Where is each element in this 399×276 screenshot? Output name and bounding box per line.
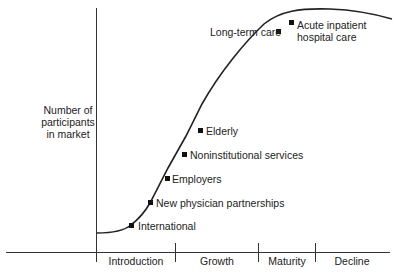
- point-label: New physician partnerships: [156, 197, 284, 209]
- point-label: Acute inpatient: [297, 19, 366, 31]
- point-marker: [198, 128, 203, 133]
- point-label: Employers: [172, 173, 222, 185]
- point-marker: [182, 152, 187, 157]
- y-axis-label-line: in market: [40, 128, 96, 140]
- stage-decline: Decline: [316, 255, 388, 267]
- point-label: International: [138, 220, 196, 232]
- stage-growth: Growth: [176, 255, 258, 267]
- point-label: Long-term care: [210, 26, 281, 38]
- point-marker: [129, 223, 134, 228]
- point-label: Noninstitutional services: [190, 149, 303, 161]
- y-axis-label-line: participants: [40, 116, 96, 128]
- point-marker: [148, 200, 153, 205]
- point-marker: [165, 176, 170, 181]
- stage-maturity: Maturity: [259, 255, 315, 267]
- point-label: Elderly: [206, 125, 238, 137]
- point-label: hospital care: [297, 31, 357, 43]
- point-marker: [289, 20, 294, 25]
- stage-introduction: Introduction: [97, 255, 175, 267]
- y-axis-label: Number of participants in market: [40, 104, 96, 140]
- y-axis-label-line: Number of: [40, 104, 96, 116]
